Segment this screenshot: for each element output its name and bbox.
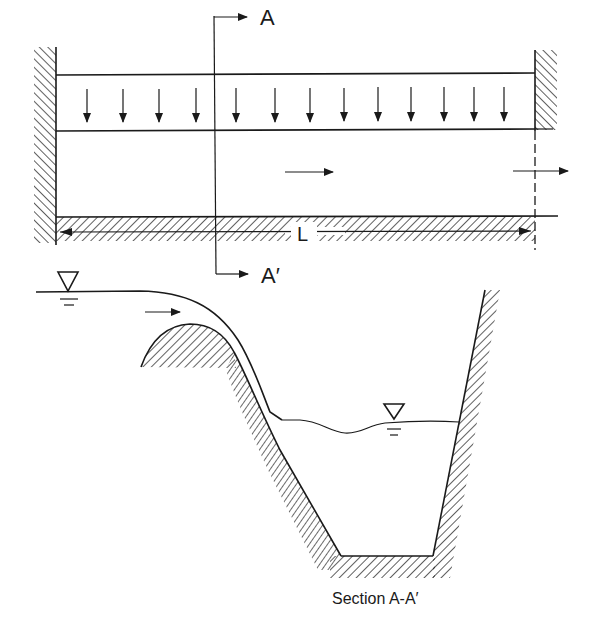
- spillway-face-hatch: [226, 352, 340, 570]
- left-wall-hatch: [34, 47, 56, 243]
- inflow-arrows: [87, 87, 504, 122]
- right-wall-hatch: [535, 50, 557, 130]
- section-label-a-prime: A′: [261, 263, 280, 288]
- plan-view: L A A′: [34, 5, 568, 288]
- channel-bottom-hatch: [330, 556, 435, 578]
- ogee-crest-hatch: [141, 324, 236, 368]
- section-label-a: A: [260, 5, 275, 30]
- section-view: Section A-A′: [36, 272, 500, 607]
- water-surface-symbol-upstream-icon: [58, 272, 78, 291]
- channel-water-surface: [282, 420, 459, 433]
- crest-lower-line: [56, 129, 535, 131]
- spillway-face-line: [234, 352, 341, 556]
- crest-upper-line: [56, 73, 535, 75]
- right-channel-wall-hatch: [433, 290, 500, 578]
- side-channel-spillway-diagram: L A A′ Sectio: [0, 0, 591, 633]
- water-surface-symbol-downstream-icon: [384, 404, 404, 419]
- channel-floor-line: [56, 216, 558, 217]
- section-caption: Section A-A′: [332, 590, 419, 607]
- length-label: L: [297, 223, 308, 245]
